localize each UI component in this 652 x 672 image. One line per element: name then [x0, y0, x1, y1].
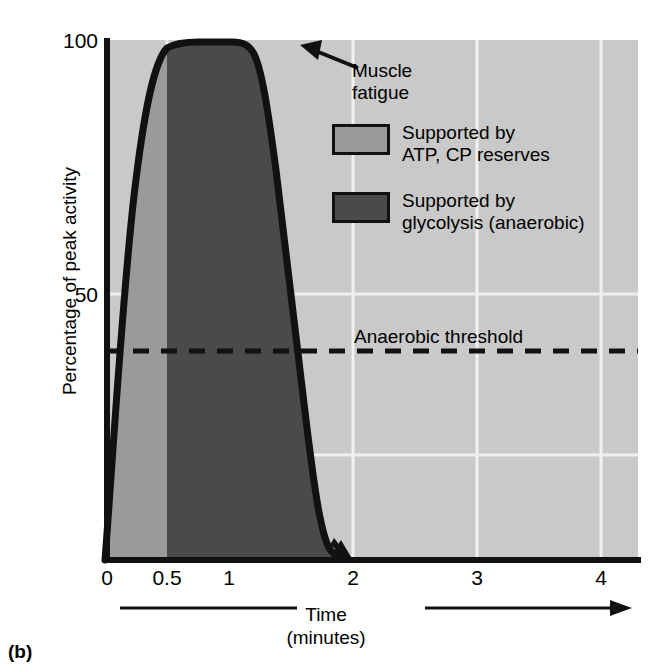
y-tick-label-50: 50	[75, 283, 98, 307]
y-tick-label-100: 100	[63, 29, 98, 53]
x-tick-label-0: 0	[101, 566, 113, 590]
legend-item-glycolysis-anaerobic: Supported by glycolysis (anaerobic)	[332, 190, 585, 234]
anaerobic-threshold-annotation: Anaerobic threshold	[354, 326, 523, 348]
x-axis-title-block: Time (minutes)	[0, 603, 652, 649]
exercise-energy-systems-figure: Percentage of peak activity 100 50 0 0.5…	[0, 0, 652, 672]
x-axis-title-line1: Time	[0, 603, 652, 626]
x-tick-label-1: 1	[223, 566, 235, 590]
x-tick-label-4: 4	[595, 566, 607, 590]
y-axis-title: Percentage of peak activity	[59, 121, 81, 441]
muscle-fatigue-annotation: Muscle fatigue	[352, 60, 412, 104]
legend-item-atp-cp-reserves: Supported by ATP, CP reserves	[332, 122, 585, 166]
chart-legend: Supported by ATP, CP reserves Supported …	[332, 122, 585, 258]
x-axis-title-line2: (minutes)	[0, 626, 652, 649]
legend-label-glycolysis-anaerobic: Supported by glycolysis (anaerobic)	[402, 190, 585, 234]
chart-plot-area	[0, 0, 652, 672]
legend-swatch-glycolysis-anaerobic	[332, 192, 390, 223]
panel-letter: (b)	[8, 641, 32, 663]
x-tick-label-3: 3	[471, 566, 483, 590]
legend-swatch-atp-cp-reserves	[332, 124, 390, 155]
legend-label-atp-cp-reserves: Supported by ATP, CP reserves	[402, 122, 550, 166]
x-tick-label-0.5: 0.5	[152, 566, 181, 590]
x-tick-label-2: 2	[347, 566, 359, 590]
